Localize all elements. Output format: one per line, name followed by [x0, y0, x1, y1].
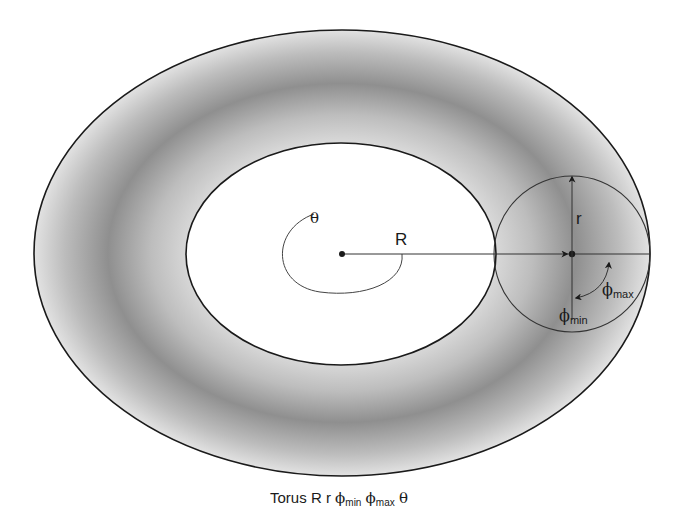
caption-phi-max: ϕmax	[366, 489, 395, 507]
major-radius-label: R	[395, 230, 407, 249]
phi-min-symbol: ϕ	[559, 306, 570, 325]
caption-phi-min: ϕmin	[335, 489, 361, 507]
minor-radius-label: r	[576, 209, 582, 228]
caption-phi-min-symbol: ϕ	[335, 489, 345, 507]
caption-word: Torus	[270, 489, 307, 506]
torus-center-point	[339, 251, 345, 257]
theta-label: θ	[310, 209, 319, 227]
caption-phi-max-sub: max	[376, 497, 395, 508]
figure-caption: Torus R r ϕmin ϕmax θ	[0, 489, 678, 508]
caption-theta: θ	[399, 489, 408, 507]
caption-phi-min-sub: min	[345, 497, 361, 508]
torus-diagram: θ R r ϕmax ϕmin	[0, 0, 678, 519]
phi-max-subscript: max	[613, 288, 634, 300]
phi-max-symbol: ϕ	[602, 280, 613, 299]
caption-R: R	[311, 489, 322, 506]
caption-phi-max-symbol: ϕ	[366, 489, 376, 507]
phi-min-subscript: min	[570, 314, 588, 326]
caption-r: r	[326, 489, 331, 506]
